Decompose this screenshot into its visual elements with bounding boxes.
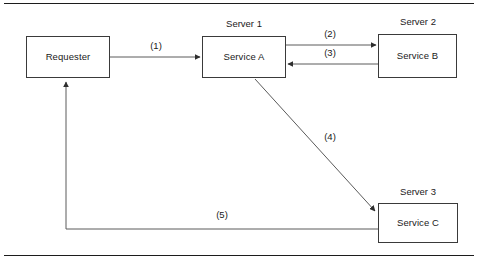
edge-2-label: (2)	[324, 29, 336, 39]
edge-5-line	[66, 82, 378, 229]
diagram-canvas: Server 1 Server 2 Server 3 Requester Ser…	[0, 0, 481, 264]
edge-4-label: (4)	[324, 132, 336, 142]
node-service-a-label: Service A	[223, 52, 264, 62]
edge-4-line	[255, 79, 375, 211]
edge-5-label: (5)	[216, 210, 228, 220]
edge-1-label: (1)	[150, 41, 162, 51]
node-service-c-label: Service C	[397, 218, 439, 228]
node-requester-label: Requester	[46, 52, 91, 62]
node-service-c[interactable]: Service C	[378, 203, 458, 243]
edge-3-label: (3)	[324, 48, 336, 58]
node-service-b-label: Service B	[397, 51, 439, 61]
node-service-b[interactable]: Service B	[378, 34, 457, 78]
server-label-server-3: Server 3	[400, 187, 436, 197]
node-service-a[interactable]: Service A	[202, 36, 286, 78]
server-label-server-1: Server 1	[226, 19, 262, 29]
server-label-server-2: Server 2	[400, 17, 436, 27]
node-requester[interactable]: Requester	[26, 36, 110, 78]
